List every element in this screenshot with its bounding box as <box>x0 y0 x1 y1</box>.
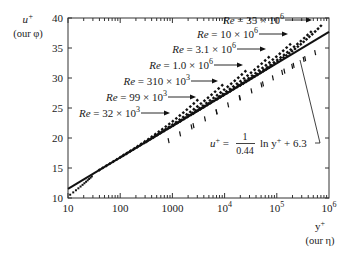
arrow-icon <box>212 79 218 84</box>
y-tick-label: 40 <box>52 12 64 24</box>
svg-text:u+: u+ <box>23 12 34 25</box>
x-axis-label: y+ (our η) <box>305 219 335 247</box>
reynolds-label: Re = 3.1 × 106 <box>171 41 236 55</box>
reynolds-label: Re = 10 × 106 <box>196 26 258 40</box>
svg-text:1: 1 <box>243 131 248 142</box>
arrow-icon <box>237 63 243 68</box>
arrow-icon <box>190 95 196 100</box>
chart: 10152025303540 101001000104105106 Re = 3… <box>0 0 348 258</box>
reynolds-label: Re = 35 × 106 <box>222 12 284 26</box>
arrow-icon <box>164 111 170 116</box>
x-tick-label: 100 <box>112 202 129 214</box>
x-tick-label: 104 <box>217 200 232 214</box>
svg-text:u+ =: u+ = <box>210 136 229 149</box>
reynolds-label: Re = 310 × 103 <box>122 73 190 87</box>
arrow-icon <box>260 47 266 52</box>
x-tick-label: 10 <box>63 202 75 214</box>
x-tick-label: 105 <box>269 200 284 214</box>
y-tick-label: 25 <box>52 102 64 114</box>
log-law-formula: u+ =10.44ln y+ + 6.3 <box>210 60 320 156</box>
x-axis-note: (our η) <box>305 235 335 247</box>
y-tick-label: 35 <box>52 42 64 54</box>
y-tick-label: 30 <box>52 72 64 84</box>
x-tick-label: 106 <box>322 200 337 214</box>
y-tick-label: 15 <box>52 162 64 174</box>
reynolds-label: Re = 99 × 103 <box>105 89 167 103</box>
svg-text:0.44: 0.44 <box>236 145 254 156</box>
y-axis-note: (our φ) <box>13 28 43 40</box>
reynolds-label: Re = 32 × 103 <box>78 105 140 119</box>
y-tick-label: 20 <box>52 132 64 144</box>
reynolds-label: Re = 1.0 × 106 <box>148 57 213 71</box>
svg-text:ln y+ + 6.3: ln y+ + 6.3 <box>260 136 307 149</box>
x-tick-label: 1000 <box>161 202 184 214</box>
arrow-icon <box>282 32 288 37</box>
svg-text:y+: y+ <box>315 219 326 232</box>
y-axis-label: u+ (our φ) <box>13 12 43 40</box>
